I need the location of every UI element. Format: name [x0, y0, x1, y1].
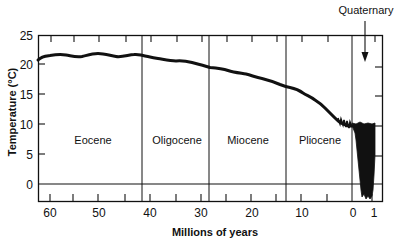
temperature-chart: 25 20 15 10 5 0 60 50 40 30 20 10 0 1 Mi… — [0, 0, 401, 244]
x-ticks-bottom — [50, 194, 372, 201]
temperature-noise — [338, 118, 352, 128]
x-tick-labels: 60 50 40 30 20 10 0 1 — [43, 206, 377, 220]
svg-text:0: 0 — [26, 178, 33, 192]
svg-text:10: 10 — [20, 118, 34, 132]
svg-text:Eocene: Eocene — [74, 134, 111, 146]
svg-text:1: 1 — [371, 206, 378, 220]
svg-text:20: 20 — [20, 58, 34, 72]
svg-text:50: 50 — [92, 206, 106, 220]
svg-text:20: 20 — [245, 206, 259, 220]
svg-text:25: 25 — [20, 29, 34, 43]
svg-text:30: 30 — [194, 206, 208, 220]
epoch-labels: Eocene Oligocene Miocene Pliocene — [74, 134, 341, 146]
svg-text:Pliocene: Pliocene — [299, 134, 341, 146]
svg-text:10: 10 — [295, 206, 309, 220]
quaternary-oscillation-fill — [352, 122, 375, 199]
svg-text:40: 40 — [143, 206, 157, 220]
y-tick-labels: 25 20 15 10 5 0 — [20, 29, 34, 192]
svg-text:Oligocene: Oligocene — [152, 134, 202, 146]
svg-text:Miocene: Miocene — [227, 134, 269, 146]
quaternary-label: Quaternary — [338, 4, 394, 16]
plot-frame — [39, 36, 383, 202]
svg-text:15: 15 — [20, 88, 34, 102]
svg-text:5: 5 — [26, 148, 33, 162]
temperature-curve — [38, 54, 352, 127]
svg-text:60: 60 — [43, 206, 57, 220]
quaternary-arrow-icon — [362, 52, 369, 62]
x-axis-title: Millions of years — [172, 226, 258, 238]
y-axis-title: Temperature (°C) — [6, 67, 18, 156]
svg-text:0: 0 — [350, 206, 357, 220]
y-ticks-right — [375, 67, 382, 156]
